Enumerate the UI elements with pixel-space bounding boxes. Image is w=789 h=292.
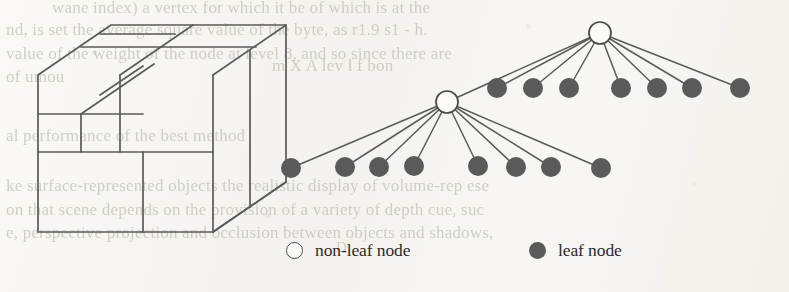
- tree-node-leaf: [281, 158, 301, 178]
- filled-circle-icon: [529, 242, 546, 259]
- tree-node-leaf: [611, 78, 631, 98]
- tree-edge-root-to-leaf-5: [600, 33, 657, 88]
- tree-node-leaf: [404, 156, 424, 176]
- tree-node-leaf: [730, 78, 750, 98]
- legend-label-non-leaf: non-leaf node: [315, 240, 410, 261]
- tree-node-leaf: [682, 78, 702, 98]
- tree-node-leaf: [523, 78, 543, 98]
- tree-node-non-leaf: [589, 22, 611, 44]
- legend-entry-non-leaf: non-leaf node: [286, 240, 410, 261]
- tree-edge-branch-to-leaf-8: [447, 102, 601, 168]
- figure-page: wane index) a vertex for which it be of …: [0, 0, 789, 292]
- open-circle-icon: [286, 242, 303, 259]
- tree-node-leaf: [487, 78, 507, 98]
- tree-node-leaf: [506, 157, 526, 177]
- tree-node-leaf: [541, 157, 561, 177]
- legend-label-leaf: leaf node: [558, 240, 622, 261]
- tree-edge-root-to-leaf-6: [600, 33, 692, 88]
- tree-nodes: [281, 22, 750, 178]
- legend-entry-leaf: leaf node: [529, 240, 622, 261]
- tree-node-leaf: [559, 78, 579, 98]
- legend: non-leaf node leaf node: [286, 240, 756, 274]
- tree-edge-branch-to-leaf-1: [291, 102, 447, 168]
- tree-edge-branch-to-leaf-2: [345, 102, 447, 167]
- tree-node-leaf: [468, 156, 488, 176]
- tree-node-non-leaf: [436, 91, 458, 113]
- tree-edges: [291, 33, 740, 168]
- tree-node-leaf: [647, 78, 667, 98]
- tree-node-leaf: [335, 157, 355, 177]
- tree-node-leaf: [369, 157, 389, 177]
- tree-node-leaf: [591, 158, 611, 178]
